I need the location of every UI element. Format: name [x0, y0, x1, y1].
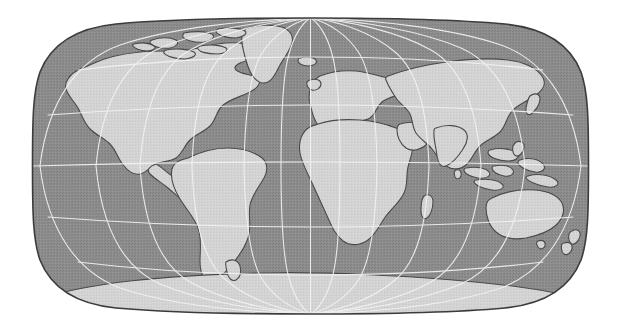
landmass-british-isles — [307, 79, 321, 90]
world-map-canvas[interactable] — [0, 0, 621, 334]
world-map-figure: Grayscale world map in a pseudocylindric… — [0, 0, 621, 334]
landmass-sri-lanka — [454, 170, 461, 179]
landmass-iceland — [298, 57, 317, 66]
landmass-tasmania — [537, 240, 546, 248]
